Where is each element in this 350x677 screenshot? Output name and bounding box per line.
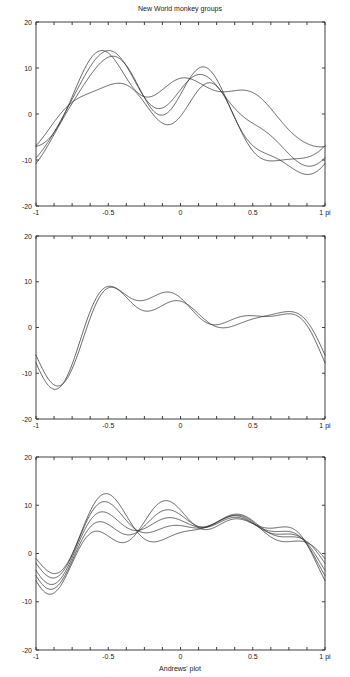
x-tick-label: 0.5 xyxy=(248,209,258,216)
x-tick-label: -0.5 xyxy=(102,653,114,660)
y-tick-label: 10 xyxy=(24,278,32,285)
figure-xlabel: Andrews' plot xyxy=(159,665,201,673)
figure-background xyxy=(0,0,350,677)
y-tick-label: 20 xyxy=(24,19,32,26)
x-tick-label: 0 xyxy=(179,653,183,660)
y-tick-label: 20 xyxy=(24,233,32,240)
x-tick-label: -1 xyxy=(33,422,39,429)
y-tick-label: 20 xyxy=(24,454,32,461)
x-tick-label: 0.5 xyxy=(248,653,258,660)
y-tick-label: -10 xyxy=(22,157,32,164)
x-tick-label: -0.5 xyxy=(102,422,114,429)
x-tick-label: -1 xyxy=(33,209,39,216)
figure-title: New World monkey groups xyxy=(138,5,222,13)
x-tick-label: 1 pi xyxy=(319,653,331,661)
x-tick-label: 0 xyxy=(179,209,183,216)
x-tick-label: 0.5 xyxy=(248,422,258,429)
y-tick-label: -20 xyxy=(22,203,32,210)
y-tick-label: 0 xyxy=(28,550,32,557)
x-tick-label: 0 xyxy=(179,422,183,429)
y-tick-label: 0 xyxy=(28,111,32,118)
y-tick-label: 10 xyxy=(24,65,32,72)
x-tick-label: -1 xyxy=(33,653,39,660)
andrews-plot-figure: New World monkey groups 20100-10-20 -1-0… xyxy=(0,0,350,677)
y-tick-label: 0 xyxy=(28,324,32,331)
y-tick-label: -10 xyxy=(22,370,32,377)
y-tick-label: -20 xyxy=(22,416,32,423)
y-tick-label: 10 xyxy=(24,502,32,509)
y-tick-label: -10 xyxy=(22,598,32,605)
x-tick-label: -0.5 xyxy=(102,209,114,216)
x-tick-label: 1 pi xyxy=(319,209,331,217)
y-tick-label: -20 xyxy=(22,647,32,654)
x-tick-label: 1 pi xyxy=(319,422,331,430)
